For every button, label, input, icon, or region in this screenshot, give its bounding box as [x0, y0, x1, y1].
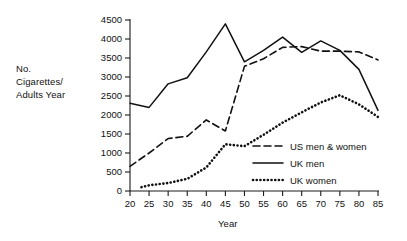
y-axis-tick-label: 3500: [101, 52, 122, 63]
x-axis-tick-label: 35: [182, 198, 193, 209]
x-axis-tick-label: 60: [277, 198, 288, 209]
y-axis-title-line-1: No.: [16, 62, 98, 75]
y-axis-tick-label: 0: [117, 185, 122, 196]
y-axis-tick-label: 4500: [101, 14, 122, 25]
x-axis-tick-label: 40: [201, 198, 212, 209]
y-axis-tick-label: 2500: [101, 90, 122, 101]
cigarette-consumption-chart: No. Cigarettes/ Adults Year Year 0500100…: [0, 0, 407, 241]
legend-label: UK men: [290, 158, 324, 169]
x-axis-tick-label: 45: [220, 198, 231, 209]
y-axis-title-line-3: Adults Year: [16, 88, 98, 101]
x-axis-tick-label: 75: [335, 198, 346, 209]
x-axis-tick-label: 70: [315, 198, 326, 209]
x-axis-tick-label: 65: [296, 198, 307, 209]
y-axis-tick-label: 1000: [101, 147, 122, 158]
x-axis-tick-label: 50: [239, 198, 250, 209]
x-axis-tick-label: 25: [144, 198, 155, 209]
y-axis-tick-label: 2000: [101, 109, 122, 120]
x-axis-title: Year: [218, 218, 238, 229]
y-axis-tick-label: 1500: [101, 128, 122, 139]
y-axis-tick-label: 3000: [101, 71, 122, 82]
series-line-uk-men: [130, 24, 378, 111]
legend-label: US men & women: [290, 141, 367, 152]
x-axis-tick-label: 55: [258, 198, 269, 209]
x-axis-tick-label: 20: [125, 198, 136, 209]
x-axis-tick-label: 85: [373, 198, 384, 209]
plot-area: 050010001500200025003000350040004500 202…: [0, 0, 407, 241]
legend-label: UK women: [290, 175, 336, 186]
chart-legend: US men & womenUK menUK women: [253, 141, 367, 186]
y-axis-title-line-2: Cigarettes/: [16, 75, 98, 88]
y-axis: 050010001500200025003000350040004500: [101, 14, 130, 196]
x-axis: 2025303540455055606570758085: [125, 191, 384, 209]
x-axis-tick-label: 80: [354, 198, 365, 209]
y-axis-tick-label: 4000: [101, 33, 122, 44]
y-axis-title: No. Cigarettes/ Adults Year: [16, 62, 98, 101]
y-axis-tick-label: 500: [106, 166, 122, 177]
x-axis-tick-label: 30: [163, 198, 174, 209]
